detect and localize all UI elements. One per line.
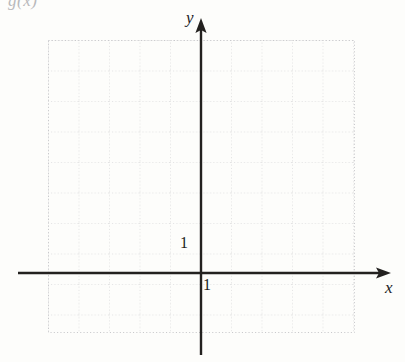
axes-svg	[0, 0, 405, 362]
x-axis-label: x	[385, 278, 393, 298]
graph-figure: g(x) y x 1 1	[0, 0, 405, 362]
axes-layer	[0, 0, 405, 362]
y-axis-label: y	[186, 8, 194, 28]
y-axis-tick-label-one: 1	[180, 234, 188, 252]
x-axis-tick-label-one: 1	[203, 276, 211, 294]
